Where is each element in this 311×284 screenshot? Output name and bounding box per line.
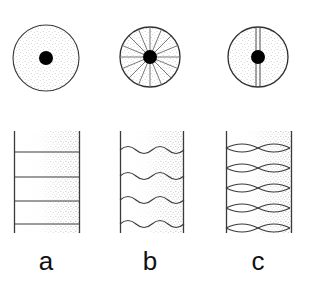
panel-a-cross-section xyxy=(13,25,79,91)
core-dot-b xyxy=(143,50,157,64)
panel-b-cross-section xyxy=(120,27,180,87)
core-dot-c xyxy=(251,50,265,64)
figure-svg: a xyxy=(0,0,311,284)
core-dot-a xyxy=(39,51,53,65)
panel-label-c: c xyxy=(252,246,265,276)
panel-c-longitudinal xyxy=(226,131,292,233)
panel-b-longitudinal xyxy=(120,131,184,233)
panel-label-b: b xyxy=(143,246,157,276)
panel-label-a: a xyxy=(39,246,54,276)
column-stipple-c xyxy=(226,131,292,233)
column-stipple-a xyxy=(14,131,80,233)
panel-a-longitudinal xyxy=(14,131,80,233)
figure-container: a xyxy=(0,0,311,284)
panel-c-cross-section xyxy=(228,27,288,87)
